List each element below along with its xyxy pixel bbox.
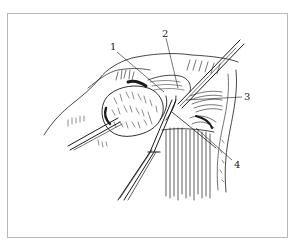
instrument-tip-structure [160,96,176,120]
label-1: 1 [110,41,116,52]
label-2: 2 [162,28,168,39]
label-4: 4 [234,159,240,170]
leader-line-4 [196,128,232,160]
bone-right-edge [225,70,236,192]
tissue-outline-inner [88,69,150,89]
surgical-illustration: 1 2 3 4 [0,0,297,247]
bone-shaft-lines [166,128,210,200]
forceps [118,100,176,200]
muscle-bundles [190,91,222,128]
exposed-structure-fibers [150,81,184,91]
tissue-mass-shadow [105,108,110,124]
right-edge-stipple [220,140,224,182]
probe-instrument [178,40,244,108]
shadow-patch-left [128,81,146,86]
label-3: 3 [244,91,250,102]
